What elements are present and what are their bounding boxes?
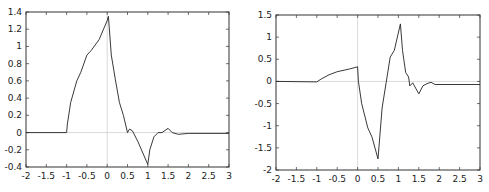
data-line xyxy=(26,16,229,164)
y-tick-label: -1 xyxy=(263,121,272,131)
x-tick-label: 2 xyxy=(186,171,192,181)
x-tick-label: 2.5 xyxy=(452,174,466,184)
left-chart: -2-1.5-1-0.500.511.522.53-0.4-0.200.20.4… xyxy=(4,7,231,181)
y-tick-label: 0 xyxy=(266,76,272,86)
x-tick-label: 1.5 xyxy=(161,171,175,181)
y-tick-label: -1.5 xyxy=(254,143,272,153)
y-tick-label: -0.5 xyxy=(254,99,272,109)
x-tick-label: 2.5 xyxy=(202,171,216,181)
x-tick-label: 0.5 xyxy=(120,171,134,181)
plot-frame xyxy=(276,15,480,170)
y-tick-label: 1 xyxy=(266,32,272,42)
y-tick-label: -2 xyxy=(263,165,272,175)
x-tick-label: -1.5 xyxy=(38,171,56,181)
right-chart: -2-1.5-1-0.500.511.522.53-2-1.5-1-0.500.… xyxy=(254,10,482,184)
x-tick-label: 2 xyxy=(436,174,442,184)
x-tick-label: 3 xyxy=(226,171,232,181)
y-tick-label: -0.2 xyxy=(4,145,22,155)
charts-canvas: -2-1.5-1-0.500.511.522.53-0.4-0.200.20.4… xyxy=(0,0,489,192)
y-tick-label: 1 xyxy=(16,41,22,51)
plot-frame xyxy=(26,12,229,167)
x-tick-label: -1 xyxy=(62,171,71,181)
y-tick-label: -0.4 xyxy=(4,162,22,172)
y-tick-label: 0.6 xyxy=(8,76,23,86)
y-tick-label: 0.2 xyxy=(8,110,22,120)
x-tick-label: -2 xyxy=(22,171,31,181)
data-line xyxy=(276,24,480,159)
x-tick-label: -2 xyxy=(272,174,281,184)
x-tick-label: 0 xyxy=(104,171,110,181)
y-tick-label: 0.4 xyxy=(8,93,23,103)
x-tick-label: 1 xyxy=(396,174,402,184)
y-tick-label: 1.4 xyxy=(8,7,23,17)
x-tick-label: 0 xyxy=(355,174,361,184)
x-tick-label: 0.5 xyxy=(371,174,385,184)
x-tick-label: 3 xyxy=(477,174,483,184)
x-tick-label: -0.5 xyxy=(78,171,96,181)
x-tick-label: 1.5 xyxy=(412,174,426,184)
x-tick-label: -0.5 xyxy=(328,174,346,184)
y-tick-label: 0 xyxy=(16,128,22,138)
x-tick-label: -1.5 xyxy=(288,174,306,184)
y-tick-label: 0.8 xyxy=(8,59,23,69)
y-tick-label: 1.2 xyxy=(8,24,22,34)
x-tick-label: -1 xyxy=(312,174,321,184)
y-tick-label: 1.5 xyxy=(258,10,272,20)
x-tick-label: 1 xyxy=(145,171,151,181)
y-tick-label: 0.5 xyxy=(258,54,272,64)
